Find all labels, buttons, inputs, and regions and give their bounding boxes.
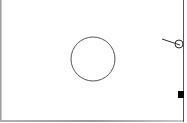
- main-circle-shape[interactable]: [71, 37, 115, 81]
- square-marker-handle[interactable]: [178, 91, 184, 98]
- drawing-canvas: [0, 0, 187, 123]
- diagram-svg: [0, 0, 187, 123]
